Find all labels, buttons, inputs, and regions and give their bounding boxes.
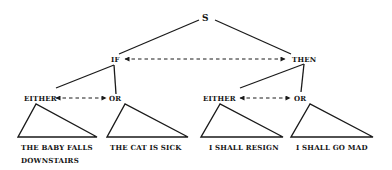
leaf-4: I SHALL GO MAD [296, 143, 368, 152]
leaf-3: I SHALL RESIGN [209, 143, 279, 152]
leaf-1-line1: THE BABY FALLS [21, 143, 93, 152]
subtree-triangle-2 [107, 104, 188, 137]
edge-s-then [215, 20, 291, 54]
subtree-triangle-1 [18, 104, 97, 137]
subtree-triangle-3 [201, 104, 283, 137]
node-if: IF [111, 55, 120, 64]
subtree-triangle-4 [291, 104, 373, 137]
edge-if-either [56, 65, 114, 88]
node-then-either: EITHER [203, 94, 236, 103]
node-then: THEN [292, 55, 317, 64]
leaf-2: THE CAT IS SICK [110, 143, 182, 152]
node-if-or: OR [109, 94, 121, 103]
leaf-1-line2: DOWNSTAIRS [21, 156, 79, 165]
edge-then-either [240, 64, 304, 88]
node-s: S [202, 13, 209, 23]
edge-then-or [301, 64, 304, 92]
syntax-tree-diagram: S IF THEN EITHER OR EITHER OR THE BABY F… [0, 0, 392, 170]
node-if-either: EITHER [24, 94, 57, 103]
edge-if-or [114, 65, 116, 94]
edge-s-if [119, 20, 199, 54]
node-then-or: OR [294, 94, 306, 103]
